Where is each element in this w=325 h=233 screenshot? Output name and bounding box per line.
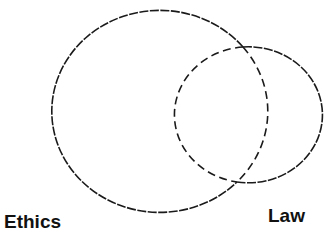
ethics-circle-outer-arc [52, 10, 243, 212]
law-circle-outer-arc [237, 47, 322, 183]
ethics-circle-inner-arc [237, 47, 268, 182]
venn-svg [0, 0, 325, 233]
ethics-label: Ethics [4, 212, 61, 231]
law-label: Law [268, 206, 305, 225]
venn-diagram: Ethics Law [0, 0, 325, 233]
law-circle-inner-arc [174, 47, 243, 182]
